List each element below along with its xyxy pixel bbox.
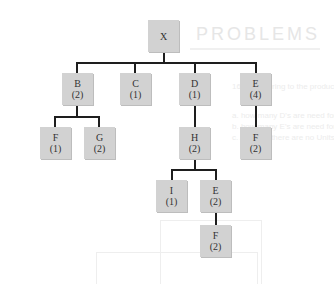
node-label: F (253, 132, 259, 143)
node-qty: (4) (250, 89, 262, 100)
edge-to-g (98, 116, 100, 127)
node-x: X (148, 20, 179, 52)
edge-to-f1 (54, 116, 56, 127)
node-qty: (2) (210, 196, 222, 207)
edge-level1-bar (76, 62, 257, 64)
ghost-line-2: a. how many D's are need for each A. (232, 111, 334, 120)
node-c: C (1) (120, 73, 151, 105)
node-f3: F (2) (200, 225, 231, 257)
node-qty: (2) (94, 143, 106, 154)
edge-to-e1 (255, 62, 257, 73)
node-d: D (1) (179, 73, 210, 105)
node-label: B (74, 78, 81, 89)
edge-to-i (171, 169, 173, 180)
node-label: X (160, 31, 167, 42)
edge-to-h (194, 105, 196, 127)
node-g: G (2) (84, 127, 115, 159)
node-h: H (2) (179, 127, 210, 159)
node-label: I (170, 185, 173, 196)
node-f1: F (1) (40, 127, 71, 159)
ghost-heading: PROBLEMS (196, 24, 320, 45)
node-qty: (1) (130, 89, 142, 100)
node-qty: (2) (189, 143, 201, 154)
node-e2: E (2) (200, 180, 231, 212)
node-f2: F (2) (240, 127, 271, 159)
edge-to-d (194, 62, 196, 73)
node-qty: (1) (166, 196, 178, 207)
edge-to-e2 (215, 169, 217, 180)
edge-to-f2 (255, 105, 257, 127)
node-qty: (1) (189, 89, 201, 100)
node-label: G (96, 132, 103, 143)
node-label: E (212, 185, 218, 196)
node-b: B (2) (62, 73, 93, 105)
node-e1: E (4) (240, 73, 271, 105)
node-i: I (1) (156, 180, 187, 212)
edge-b-bar (54, 116, 100, 118)
node-qty: (2) (210, 241, 222, 252)
node-qty: (2) (72, 89, 84, 100)
node-label: F (213, 230, 219, 241)
node-label: E (252, 78, 258, 89)
node-label: C (132, 78, 139, 89)
ghost-rule (190, 48, 320, 50)
edge-to-f3 (215, 212, 217, 225)
node-label: H (191, 132, 198, 143)
node-label: D (191, 78, 198, 89)
edge-h-bar (171, 169, 217, 171)
edge-to-b (76, 62, 78, 73)
edge-to-c (134, 62, 136, 73)
node-qty: (1) (50, 143, 62, 154)
node-label: F (53, 132, 59, 143)
node-qty: (2) (250, 143, 262, 154)
